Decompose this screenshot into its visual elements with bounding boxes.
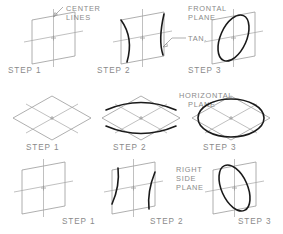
step-label-row2-step2: STEP 2 [113,143,146,152]
row2-step1-figure [13,96,91,140]
step-label-row1-step1: STEP 1 [8,66,41,75]
row2-step2-figure [102,96,180,140]
center-lines-label-line1: CENTER [66,4,101,13]
row3-step3-figure [205,159,264,217]
right-side-plane-label-line2: SIDE [176,174,196,183]
right-side-plane-label-line1: RIGHT [176,165,203,174]
step-label-row1-step2: STEP 2 [97,66,130,75]
step-label-row3-step2: STEP 2 [150,217,183,226]
step-label-row2-step1: STEP 1 [26,143,59,152]
step-label-row3-step3: STEP 3 [238,217,271,226]
frontal-plane-label-line1: FRONTAL [188,4,227,13]
step-label-row2-step3: STEP 3 [203,143,236,152]
center-lines-label-line2: LINES [66,13,91,22]
tangent-leader [163,38,186,47]
right-side-plane-label-line3: PLANE [176,183,204,192]
drawing-sheet: CENTER LINES FRONTAL PLANE TAN. STEP 1 S… [0,0,283,234]
step-label-row1-step3: STEP 3 [188,66,221,75]
row3-step1-figure [14,159,73,217]
row3-step2-figure [104,159,163,217]
frontal-plane-label-line2: PLANE [188,13,216,22]
row1-step2-figure [113,9,172,67]
step-label-row3-step1: STEP 1 [62,217,95,226]
